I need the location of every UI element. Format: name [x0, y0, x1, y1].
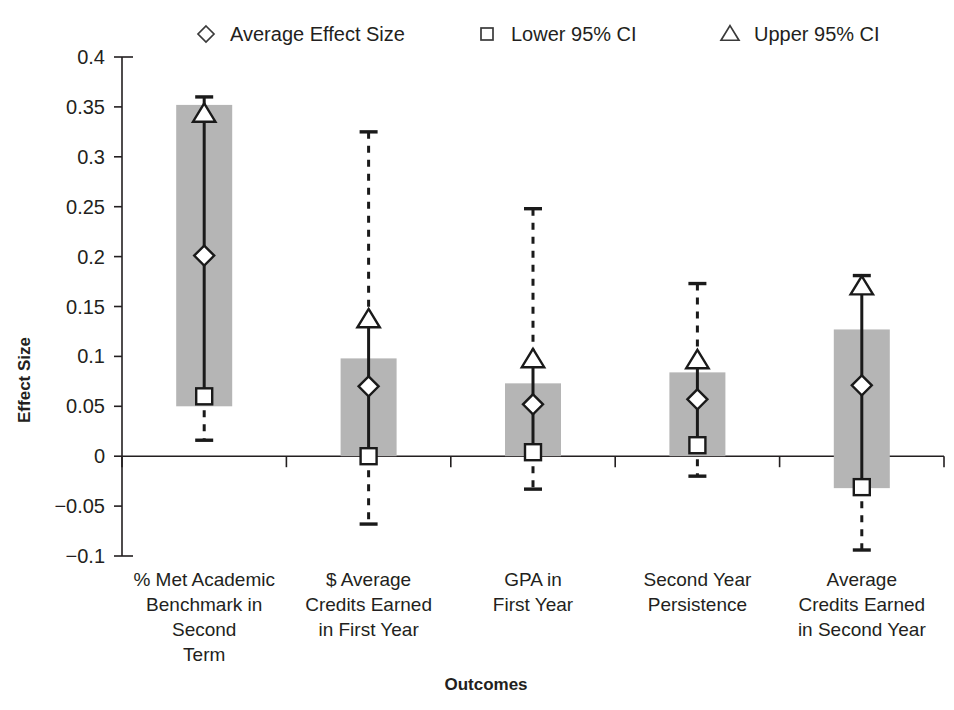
y-axis-tick-label: 0 [94, 445, 105, 467]
category-label-group: $ AverageCredits Earnedin First Year [305, 569, 432, 640]
legend-item: Upper 95% CI [721, 23, 880, 45]
y-axis-tick-label: −0.05 [54, 495, 105, 517]
category-label-group: GPA inFirst Year [493, 569, 574, 615]
chart-axes [114, 57, 944, 556]
legend-label: Upper 95% CI [754, 23, 880, 45]
legend-label: Lower 95% CI [511, 23, 637, 45]
y-axis-tick-label: 0.4 [77, 46, 105, 68]
y-axis-title: Effect Size [15, 337, 34, 423]
category-label-line: Credits Earned [798, 594, 925, 615]
category-label-line: Average [827, 569, 897, 590]
error-bars [195, 97, 871, 550]
y-axis-tick-label: 0.35 [66, 96, 105, 118]
category-label-line: Benchmark in [146, 594, 262, 615]
category-label-group: AverageCredits Earnedin Second Year [798, 569, 927, 640]
legend-item: Average Effect Size [198, 23, 405, 45]
category-label-line: Credits Earned [305, 594, 432, 615]
category-label-line: First Year [493, 594, 574, 615]
category-label-line: in First Year [318, 619, 419, 640]
legend-triangle-icon [721, 26, 739, 41]
category-label-line: Persistence [648, 594, 747, 615]
chart-canvas: Average Effect SizeLower 95% CIUpper 95%… [0, 0, 954, 710]
category-label-group: Second YearPersistence [644, 569, 752, 615]
lower-ci-marker [196, 388, 212, 404]
x-axis-title: Outcomes [444, 675, 527, 694]
category-label-line: $ Average [326, 569, 411, 590]
y-axis-tick-label: 0.2 [77, 246, 105, 268]
category-label-line: in Second Year [798, 619, 927, 640]
y-axis-tick-labels: 0.40.350.30.250.20.150.10.050−0.05−0.1 [54, 46, 105, 567]
legend-diamond-icon [198, 26, 214, 42]
chart-legend: Average Effect SizeLower 95% CIUpper 95%… [198, 23, 880, 45]
y-axis-tick-label: 0.05 [66, 395, 105, 417]
y-axis-tick-label: 0.3 [77, 146, 105, 168]
lower-ci-marker [525, 444, 541, 460]
x-axis-category-labels: % Met AcademicBenchmark inSecondTerm$ Av… [133, 569, 926, 665]
y-axis-tick-label: 0.1 [77, 345, 105, 367]
category-label-line: % Met Academic [133, 569, 275, 590]
category-label-line: Second [172, 619, 236, 640]
upper-ci-marker [851, 276, 873, 294]
y-axis-tick-label: −0.1 [66, 545, 105, 567]
category-label-line: Term [183, 644, 225, 665]
category-label-group: % Met AcademicBenchmark inSecondTerm [133, 569, 275, 665]
lower-ci-marker [361, 448, 377, 464]
category-label-line: GPA in [504, 569, 562, 590]
legend-square-icon [481, 28, 493, 40]
y-axis-tick-label: 0.25 [66, 196, 105, 218]
upper-ci-marker [686, 350, 708, 368]
upper-ci-marker [522, 349, 544, 367]
legend-item: Lower 95% CI [481, 23, 637, 45]
effect-size-chart: Average Effect SizeLower 95% CIUpper 95%… [0, 0, 954, 710]
lower-ci-marker [854, 479, 870, 495]
category-label-line: Second Year [644, 569, 752, 590]
y-axis-tick-label: 0.15 [66, 296, 105, 318]
upper-ci-marker [357, 309, 379, 327]
lower-ci-marker [689, 437, 705, 453]
legend-label: Average Effect Size [230, 23, 405, 45]
